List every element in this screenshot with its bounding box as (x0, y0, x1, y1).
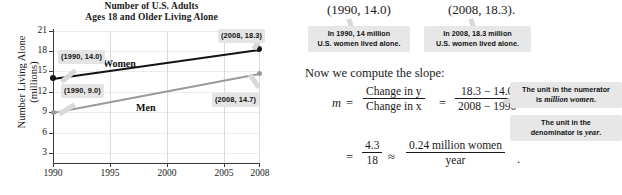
x-tick-label-1990: 1990 (33, 168, 73, 178)
figure-root: Number of U.S. Adults Ages 18 and Older … (0, 0, 622, 195)
x-axis-line (53, 163, 260, 164)
gridline-h-15 (53, 71, 260, 72)
chart-title-line1: Number of U.S. Adults (44, 1, 259, 12)
slope-derivation: (1990, 14.0) (2008, 18.3). In 1990, 14 m… (305, 0, 622, 195)
series-label-men: Men (136, 102, 155, 113)
unit-note-denominator: The unit in the denominator is year. (510, 115, 622, 141)
note-1990: In 1990, 14 million U.S. women lived alo… (308, 26, 410, 52)
note-2008: In 2008, 18.3 million U.S. women lived a… (424, 26, 531, 52)
unit-note-denominator-line1: The unit in the (515, 118, 617, 128)
x-tick-mark-2000 (167, 163, 168, 167)
fraction-change-in-y-over-x: Change in y Change in x (363, 85, 425, 112)
note-2008-line1: In 2008, 18.3 million (429, 29, 526, 39)
fraction-denominator-change-x: Change in x (363, 99, 425, 112)
gridline-v-2000 (167, 31, 168, 163)
y-tick-label-21: 21 (25, 25, 47, 35)
unit-note-denominator-line2: denominator is year. (515, 128, 617, 138)
series-label-women: Women (103, 58, 136, 69)
callout-women-1990: (1990, 14.0) (58, 50, 105, 64)
fraction-numerator-million-women: 0.24 million women (406, 139, 505, 152)
x-tick-mark-1995 (110, 163, 111, 167)
x-tick-label-1995: 1995 (90, 168, 130, 178)
line-chart: Number of U.S. Adults Ages 18 and Older … (0, 0, 305, 195)
unit-note-numerator-line1: The unit in the numerator (515, 85, 617, 95)
coordinate-pair-2008: (2008, 18.3). (448, 2, 515, 18)
x-tick-mark-2005 (224, 163, 225, 167)
data-point-women-1990 (50, 75, 56, 81)
slope-intro-sentence: Now we compute the slope: (305, 66, 445, 81)
chart-title-line2: Ages 18 and Older Living Alone (44, 12, 259, 23)
y-tick-label-6: 6 (25, 127, 47, 137)
y-tick-mark-21 (49, 31, 54, 32)
callout-women-2008: (2008, 18.3) (218, 29, 265, 43)
y-axis-line (53, 29, 54, 164)
fraction-numerator-4point3: 4.3 (362, 139, 382, 152)
slope-variable-m: m (332, 96, 341, 111)
equals-sign-1: = (346, 96, 353, 111)
chart-title: Number of U.S. Adults Ages 18 and Older … (44, 1, 259, 23)
callout-men-2008: (2008, 14.7) (212, 93, 259, 107)
note-1990-line2: U.S. women lived alone. (313, 39, 405, 49)
unit-note-numerator-line2: is million women. (515, 95, 617, 105)
fraction-numerator-change-y: Change in y (363, 85, 425, 98)
y-tick-mark-3 (49, 153, 54, 154)
y-tick-mark-18 (49, 51, 54, 52)
gridline-h-6 (53, 133, 260, 134)
coordinate-pair-1990: (1990, 14.0) (327, 2, 391, 18)
fraction-4point3-over-18: 4.3 18 (362, 139, 382, 166)
unit-note-numerator: The unit in the numerator is million wom… (510, 82, 622, 108)
unit-note-numerator-suffix: . (594, 95, 596, 104)
unit-note-numerator-italic: million women (544, 95, 594, 104)
final-period: . (517, 152, 520, 167)
equals-sign-2: = (439, 96, 446, 111)
x-tick-mark-1990 (53, 163, 54, 167)
y-tick-label-18: 18 (25, 45, 47, 55)
x-tick-mark-2008 (259, 163, 260, 167)
equals-sign-3: = (346, 150, 353, 165)
y-tick-label-12: 12 (25, 86, 47, 96)
callout-men-1990: (1990, 9.0) (61, 84, 104, 98)
note-2008-line2: U.S. women lived alone. (429, 39, 526, 49)
fraction-denominator-18: 18 (362, 153, 382, 166)
y-tick-label-3: 3 (25, 147, 47, 157)
gridline-h-3 (53, 153, 260, 154)
y-tick-label-15: 15 (25, 65, 47, 75)
unit-note-numerator-prefix: is (536, 95, 544, 104)
x-tick-label-2008: 2008 (240, 168, 280, 178)
approximately-equal-sign: ≈ (388, 150, 395, 165)
fraction-rate-result: 0.24 million women year (406, 139, 505, 166)
y-tick-mark-12 (49, 92, 54, 93)
x-tick-label-2005: 2005 (204, 168, 244, 178)
data-point-men-2008 (257, 71, 262, 76)
unit-note-denominator-prefix: denominator is (531, 128, 585, 137)
y-tick-mark-15 (49, 71, 54, 72)
y-tick-label-9: 9 (25, 106, 47, 116)
unit-note-denominator-suffix: . (599, 128, 601, 137)
gridline-v-1995 (110, 31, 111, 163)
y-tick-mark-6 (49, 133, 54, 134)
data-point-men-1990 (51, 110, 56, 115)
x-tick-label-2000: 2000 (147, 168, 187, 178)
unit-note-denominator-italic: year (585, 128, 599, 137)
gridline-h-9 (53, 112, 260, 113)
fraction-denominator-year: year (406, 153, 505, 166)
note-1990-line1: In 1990, 14 million (313, 29, 405, 39)
